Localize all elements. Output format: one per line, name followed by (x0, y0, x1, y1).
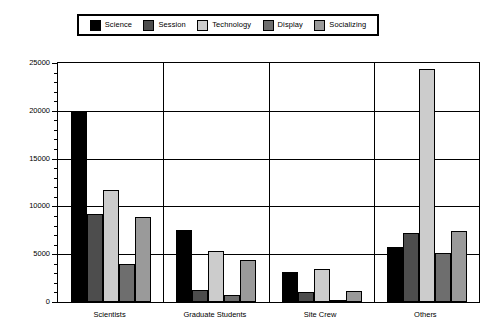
bar (71, 112, 87, 302)
bar-group (374, 63, 479, 302)
y-axis-minor-tick (54, 216, 57, 217)
y-axis-tick (52, 206, 57, 207)
bar (298, 292, 314, 302)
y-axis-minor-tick (54, 101, 57, 102)
y-axis-label: 0 (46, 298, 50, 306)
y-axis-minor-tick (54, 197, 57, 198)
y-axis-label: 10000 (29, 203, 50, 211)
y-axis-label: 20000 (29, 107, 50, 115)
plot-area: 0500010000150002000025000 (57, 62, 480, 303)
legend-item-science: Science (90, 20, 132, 31)
bar-group (163, 63, 268, 302)
y-axis-tick (52, 254, 57, 255)
bar-group (269, 63, 374, 302)
y-axis-minor-tick (54, 235, 57, 236)
legend-item-socializing: Socializing (314, 20, 366, 31)
y-axis-minor-tick (54, 82, 57, 83)
bar (119, 264, 135, 302)
y-axis-minor-tick (54, 92, 57, 93)
y-axis-minor-tick (54, 245, 57, 246)
y-axis-label: 25000 (29, 59, 50, 67)
bar (192, 290, 208, 302)
legend-swatch-science (90, 20, 101, 31)
bar (387, 247, 403, 302)
bar (87, 214, 103, 302)
x-axis-label: Site Crew (304, 311, 337, 319)
bar (282, 272, 298, 302)
legend-label-technology: Technology (212, 21, 251, 29)
legend-label-science: Science (105, 21, 132, 29)
legend-swatch-socializing (314, 20, 325, 31)
y-axis-label: 5000 (33, 250, 50, 258)
y-axis-minor-tick (54, 264, 57, 265)
y-axis-tick (52, 302, 57, 303)
bar (314, 269, 330, 302)
legend-label-socializing: Socializing (329, 21, 366, 29)
bar-chart: Science Session Technology Display Socia… (0, 0, 497, 332)
y-axis-minor-tick (54, 149, 57, 150)
y-axis-tick (52, 111, 57, 112)
y-axis-minor-tick (54, 273, 57, 274)
y-axis-minor-tick (54, 73, 57, 74)
y-axis-minor-tick (54, 226, 57, 227)
bar (208, 251, 224, 302)
bar (451, 231, 467, 302)
bar (435, 253, 451, 302)
bar (135, 217, 151, 302)
legend-item-session: Session (143, 20, 185, 31)
y-axis-minor-tick (54, 292, 57, 293)
legend-swatch-technology (197, 20, 208, 31)
bar (419, 69, 435, 302)
plot-inner (58, 63, 479, 302)
y-axis-minor-tick (54, 168, 57, 169)
x-axis-label: Graduate Students (183, 311, 246, 319)
y-axis-minor-tick (54, 120, 57, 121)
y-axis-minor-tick (54, 130, 57, 131)
legend-label-session: Session (158, 21, 185, 29)
legend-item-technology: Technology (197, 20, 251, 31)
bar (346, 291, 362, 302)
y-axis-minor-tick (54, 283, 57, 284)
x-axis-label: Scientists (94, 311, 126, 319)
bar (330, 300, 346, 302)
bar (176, 230, 192, 302)
y-axis-minor-tick (54, 178, 57, 179)
bar (224, 295, 240, 302)
bar-group (58, 63, 163, 302)
y-axis-tick (52, 63, 57, 64)
bar (103, 190, 119, 302)
y-axis-tick (52, 159, 57, 160)
y-axis-minor-tick (54, 187, 57, 188)
bar (403, 233, 419, 302)
legend-swatch-display (263, 20, 274, 31)
legend-label-display: Display (278, 21, 303, 29)
legend-item-display: Display (263, 20, 303, 31)
x-axis-label: Others (414, 311, 437, 319)
y-axis-minor-tick (54, 139, 57, 140)
bar (240, 260, 256, 302)
legend-swatch-session (143, 20, 154, 31)
y-axis-label: 15000 (29, 155, 50, 163)
chart-legend: Science Session Technology Display Socia… (77, 14, 379, 36)
